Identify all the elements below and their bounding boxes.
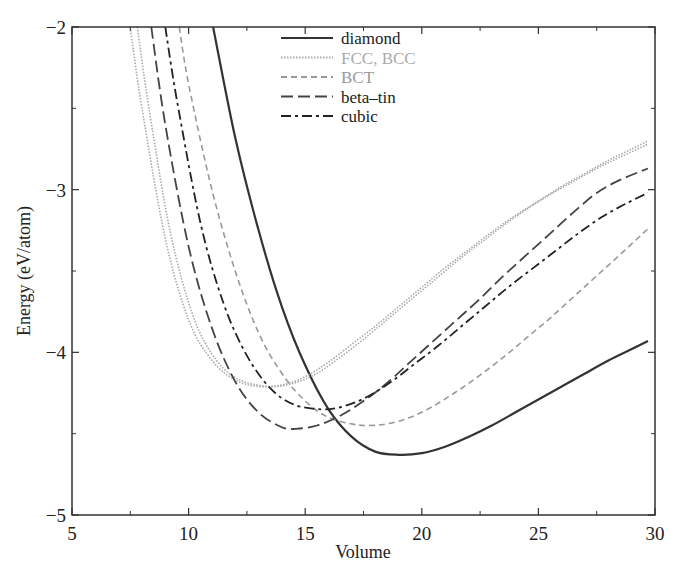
legend-item-diamond: diamond bbox=[281, 29, 401, 48]
series-line-fcc bbox=[130, 27, 648, 387]
legend-label: BCT bbox=[341, 68, 375, 87]
x-tick-label: 25 bbox=[529, 523, 548, 544]
legend-item-fcc-bcc: FCC, BCC bbox=[281, 49, 416, 68]
y-tick-label: −5 bbox=[46, 505, 66, 526]
legend-item-bct: BCT bbox=[281, 68, 375, 87]
series-line-diamond bbox=[213, 27, 648, 455]
y-tick-label: −2 bbox=[46, 17, 66, 38]
x-tick-label: 15 bbox=[296, 523, 315, 544]
legend: diamondFCC, BCCBCTbeta–tincubic bbox=[281, 29, 416, 126]
legend-label: cubic bbox=[341, 107, 378, 126]
series-line-cubic bbox=[165, 27, 648, 409]
x-tick-label: 10 bbox=[179, 523, 198, 544]
legend-item-cubic: cubic bbox=[281, 107, 378, 126]
legend-label: diamond bbox=[341, 29, 401, 48]
x-tick-label: 30 bbox=[646, 523, 665, 544]
x-tick-label: 20 bbox=[412, 523, 431, 544]
energy-volume-chart: 51015202530−5−4−3−2 diamondFCC, BCCBCTbe… bbox=[0, 0, 677, 582]
x-axis-title: Volume bbox=[335, 542, 391, 562]
legend-label: FCC, BCC bbox=[341, 49, 416, 68]
x-tick-label: 5 bbox=[67, 523, 77, 544]
y-tick-label: −3 bbox=[46, 180, 66, 201]
legend-item-beta-tin: beta–tin bbox=[281, 88, 396, 107]
y-axis-title: Energy (eV/atom) bbox=[14, 206, 35, 336]
legend-label: beta–tin bbox=[341, 88, 396, 107]
y-tick-label: −4 bbox=[46, 342, 67, 363]
